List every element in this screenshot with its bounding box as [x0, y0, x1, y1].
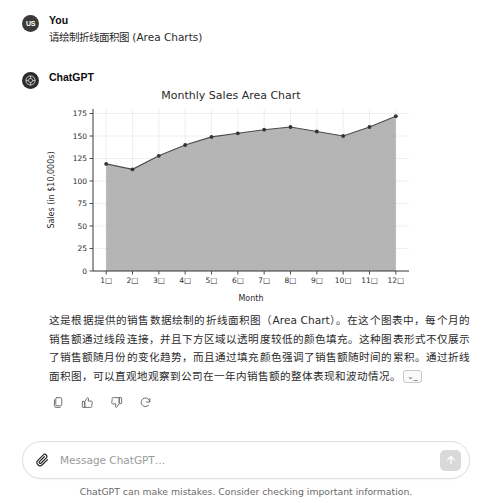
chart-title: Monthly Sales Area Chart	[161, 89, 301, 102]
y-tick-label: 50	[77, 222, 87, 231]
composer-area: ChatGPT can make mistakes. Consider chec…	[0, 441, 492, 503]
x-tick-label: 2□	[127, 276, 139, 285]
data-point	[368, 125, 372, 129]
x-tick-label: 3□	[153, 276, 165, 285]
citation-chip[interactable]: ⌄_	[403, 370, 422, 383]
y-tick-label: 25	[77, 244, 87, 253]
area-chart: Monthly Sales Area Chart0255075100125150…	[41, 87, 470, 305]
avatar-initials: US	[26, 20, 35, 27]
disclaimer-text: ChatGPT can make mistakes. Consider chec…	[22, 486, 470, 497]
thumbs-down-icon[interactable]	[109, 395, 124, 410]
data-point	[183, 143, 187, 147]
x-tick-label: 10□	[335, 276, 352, 285]
data-point	[341, 134, 345, 138]
y-tick-label: 150	[73, 132, 88, 141]
send-button[interactable]	[440, 450, 461, 471]
assistant-message: ChatGPT Monthly Sales Area Chart02550751…	[22, 71, 470, 410]
data-point	[157, 154, 161, 158]
avatar-chatgpt-icon	[22, 72, 39, 89]
y-tick-label: 125	[73, 154, 88, 163]
chatgpt-conversation-page: US You 请绘制折线面积图 (Area Charts) ChatGPT	[0, 0, 492, 503]
y-tick-label: 175	[73, 109, 88, 118]
assistant-answer-paragraph: 这是根据提供的销售数据绘制的折线面积图（Area Chart）。在这个图表中，每…	[49, 311, 470, 385]
user-message-author: You	[49, 14, 470, 27]
x-tick-label: 1□	[100, 276, 112, 285]
x-tick-label: 11□	[361, 276, 378, 285]
x-tick-label: 4□	[179, 276, 191, 285]
message-action-bar	[49, 395, 470, 410]
x-tick-label: 7□	[258, 276, 270, 285]
assistant-message-body: ChatGPT Monthly Sales Area Chart02550751…	[49, 71, 470, 410]
avatar-user: US	[22, 15, 39, 32]
data-point	[131, 167, 135, 171]
y-axis-label: Sales (in $10,000s)	[47, 151, 56, 228]
user-message-text: 请绘制折线面积图 (Area Charts)	[49, 30, 470, 45]
area-fill	[106, 116, 396, 271]
x-tick-label: 9□	[311, 276, 323, 285]
assistant-message-author: ChatGPT	[49, 71, 470, 84]
message-composer[interactable]	[22, 441, 470, 479]
data-point	[210, 135, 214, 139]
data-point	[315, 130, 319, 134]
conversation-thread: US You 请绘制折线面积图 (Area Charts) ChatGPT	[0, 0, 492, 410]
user-message: US You 请绘制折线面积图 (Area Charts)	[22, 14, 470, 45]
x-tick-label: 6□	[232, 276, 244, 285]
data-point	[289, 125, 293, 129]
message-input[interactable]	[50, 454, 440, 466]
user-message-body: You 请绘制折线面积图 (Area Charts)	[49, 14, 470, 45]
thumbs-up-icon[interactable]	[80, 395, 95, 410]
data-point	[394, 114, 398, 118]
data-point	[236, 131, 240, 135]
copy-icon[interactable]	[51, 395, 66, 410]
x-axis-label: Month	[238, 294, 263, 303]
y-tick-label: 0	[82, 267, 87, 276]
y-tick-label: 100	[73, 177, 88, 186]
data-point	[262, 128, 266, 132]
x-tick-label: 5□	[206, 276, 218, 285]
regenerate-icon[interactable]	[138, 395, 153, 410]
x-tick-label: 12□	[388, 276, 405, 285]
data-point	[104, 162, 108, 166]
x-tick-label: 8□	[285, 276, 297, 285]
y-tick-label: 75	[77, 199, 87, 208]
paperclip-icon[interactable]	[35, 453, 50, 468]
